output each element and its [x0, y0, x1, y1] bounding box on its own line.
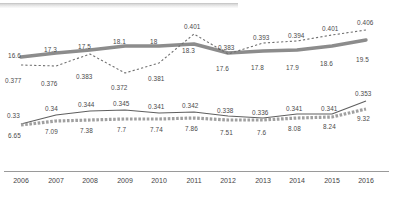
plot-area: 16.6 17.3 17.5 18.1 18 18.3 17.6 17.8 17…: [0, 8, 393, 168]
x-tick-label: 2013: [255, 177, 271, 184]
data-label: 17.6: [216, 65, 229, 72]
data-label: 8.08: [288, 125, 301, 132]
data-label: 18.1: [113, 38, 126, 45]
x-tick-label: 2009: [117, 177, 133, 184]
data-label: 7.09: [45, 128, 58, 135]
data-label: 6.65: [8, 132, 21, 139]
data-label: 0.344: [78, 101, 95, 108]
data-label: 19.5: [356, 56, 369, 63]
data-label: 7.51: [220, 129, 233, 136]
data-label: 0.377: [5, 77, 22, 84]
data-label: 7.6: [257, 129, 266, 136]
data-label: 0.376: [41, 80, 58, 87]
data-label: 0.401: [184, 23, 201, 30]
line-chart: 16.6 17.3 17.5 18.1 18 18.3 17.6 17.8 17…: [0, 0, 393, 198]
data-label: 17.8: [251, 64, 264, 71]
data-label: 0.33: [7, 112, 20, 119]
data-label: 0.381: [148, 75, 165, 82]
data-label: 17.9: [286, 64, 299, 71]
data-label: 18: [150, 38, 157, 45]
data-label: 0.393: [253, 34, 270, 41]
data-label: 9.32: [357, 115, 370, 122]
data-label: 0.341: [148, 103, 165, 110]
data-label: 0.383: [76, 73, 93, 80]
data-label: 0.394: [288, 32, 305, 39]
data-label: 0.383: [218, 44, 235, 51]
data-label: 18.6: [320, 60, 333, 67]
x-tick-label: 2016: [358, 177, 374, 184]
data-label: 0.353: [355, 90, 372, 97]
data-label: 7.7: [117, 126, 126, 133]
data-label: 8.24: [323, 123, 336, 130]
x-tick-label: 2010: [151, 177, 167, 184]
x-tick-label: 2011: [186, 177, 201, 184]
x-axis-tick-labels: 2006 2007 2008 2009 2010 2011 2012 2013 …: [0, 177, 393, 193]
data-label: 7.74: [150, 126, 163, 133]
data-label: 0.342: [182, 102, 199, 109]
data-label: 7.86: [185, 125, 198, 132]
series-canvas: [0, 8, 393, 168]
x-tick-label: 2008: [82, 177, 98, 184]
data-label: 0.372: [111, 84, 128, 91]
data-label: 17.3: [44, 46, 57, 53]
data-label: 0.336: [252, 109, 269, 116]
x-tick-label: 2015: [324, 177, 340, 184]
x-tick-label: 2006: [13, 177, 29, 184]
series-line-thick-dashed-lower: [21, 109, 366, 125]
data-label: 0.406: [357, 19, 374, 26]
x-tick-label: 2014: [289, 177, 305, 184]
data-label: 0.341: [286, 105, 303, 112]
data-label: 0.401: [322, 25, 339, 32]
data-label: 0.345: [113, 100, 130, 107]
x-axis-line: [4, 171, 389, 172]
data-label: 7.38: [80, 127, 93, 134]
data-label: 0.34: [45, 105, 58, 112]
data-label: 16.6: [8, 52, 21, 59]
x-tick-label: 2007: [48, 177, 64, 184]
data-label: 17.5: [78, 43, 91, 50]
data-label: 18.3: [182, 47, 195, 54]
x-tick-label: 2012: [220, 177, 236, 184]
data-label: 0.338: [217, 107, 234, 114]
data-label: 0.341: [321, 105, 338, 112]
